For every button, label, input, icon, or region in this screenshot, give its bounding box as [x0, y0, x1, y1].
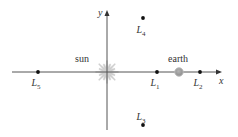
coordinate-axes: x y [12, 7, 224, 130]
x-axis-label: x [218, 75, 224, 86]
lagrange-point-l5: L5 [30, 70, 41, 90]
y-axis-arrowhead-icon [105, 10, 110, 16]
lagrange-point-l1: L1 [149, 70, 160, 90]
point-label-l2: L2 [192, 77, 203, 91]
lagrange-diagram: x y sun earth L1L2L3L4L5 [0, 0, 238, 137]
diagram-canvas: x y sun earth L1L2L3L4L5 [0, 0, 238, 137]
earth-icon [175, 68, 183, 76]
lagrange-point-l4: L4 [135, 16, 146, 37]
lagrange-point-l3: L3 [135, 111, 146, 127]
earth-label: earth [168, 53, 188, 64]
point-label-l3: L3 [135, 111, 146, 125]
x-axis-arrowhead-icon [216, 70, 222, 75]
point-dot-icon [36, 70, 40, 74]
point-label-l4: L4 [135, 24, 146, 38]
point-label-l5: L5 [30, 77, 41, 91]
lagrange-point-l2: L2 [192, 70, 203, 90]
point-dot-icon [141, 16, 145, 20]
sun-label: sun [75, 53, 89, 64]
point-dot-icon [198, 70, 202, 74]
point-dot-icon [155, 70, 159, 74]
point-label-l1: L1 [149, 77, 160, 91]
y-axis-label: y [97, 7, 103, 18]
